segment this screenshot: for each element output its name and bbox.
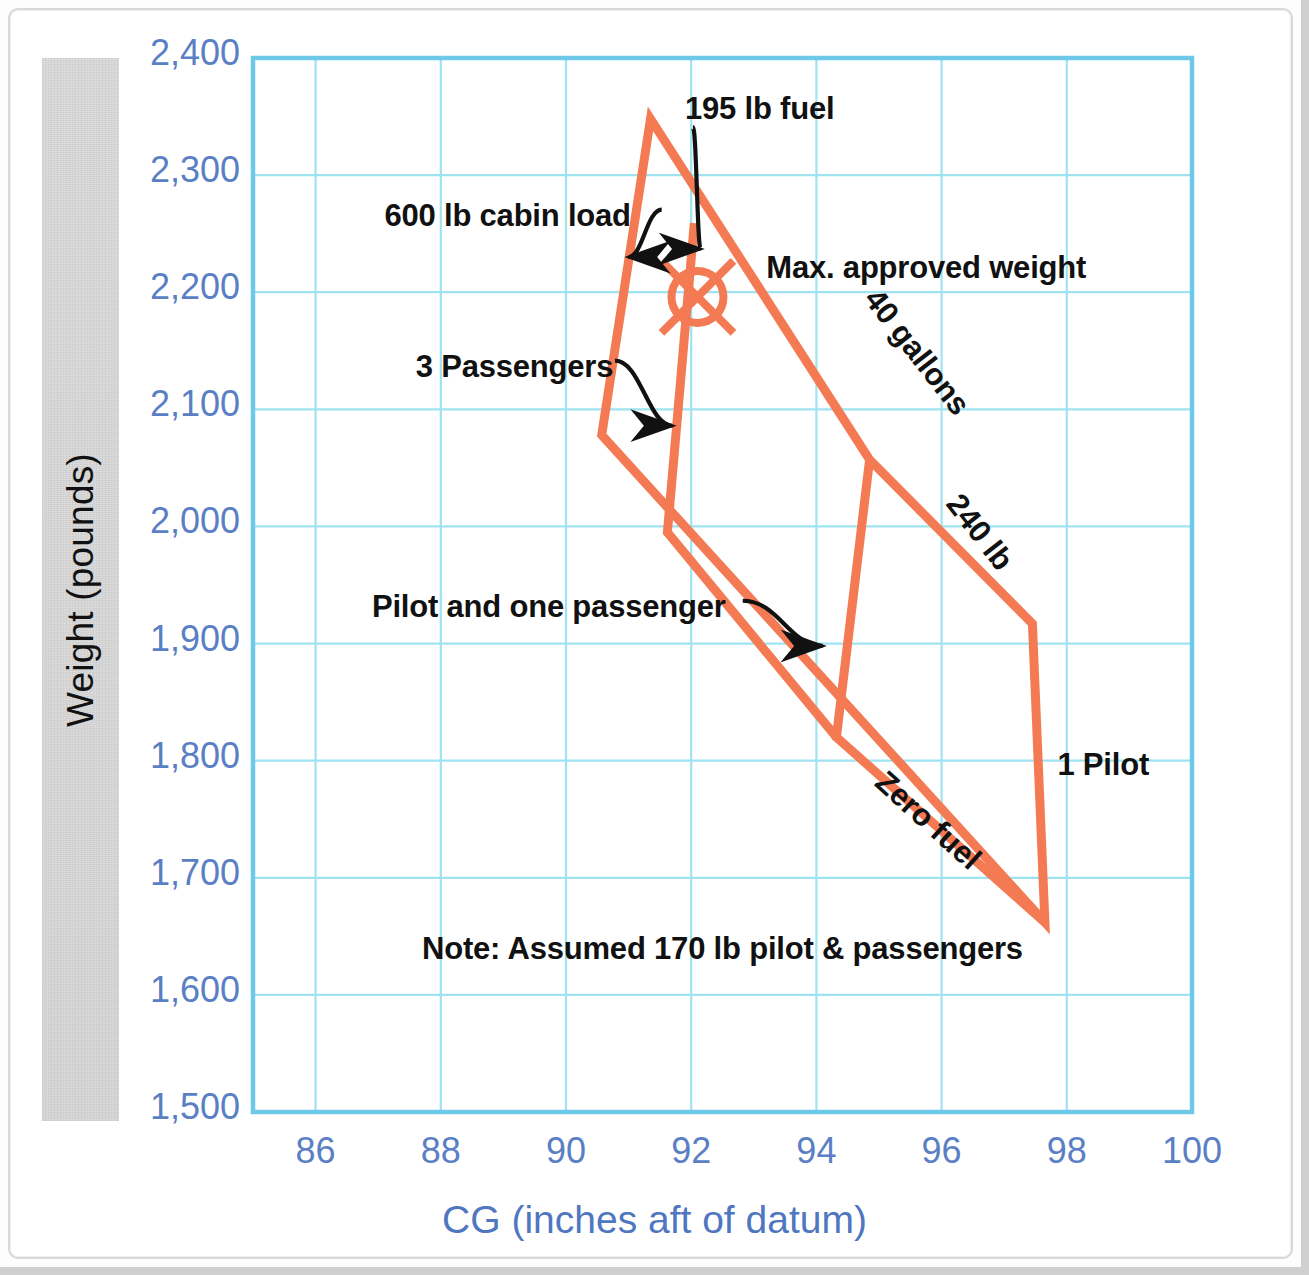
x-tick-label: 92 xyxy=(631,1130,751,1172)
y-tick-label: 1,800 xyxy=(128,735,240,777)
y-tick-label: 1,600 xyxy=(128,969,240,1011)
figure-page: Weight (pounds) 1,5001,6001,7001,8001,90… xyxy=(0,0,1309,1275)
y-tick-label: 2,400 xyxy=(128,32,240,74)
x-axis-title: CG (inches aft of datum) xyxy=(0,1198,1309,1242)
x-tick-label: 86 xyxy=(256,1130,376,1172)
y-tick-label: 2,100 xyxy=(128,383,240,425)
1-pilot: 1 Pilot xyxy=(1057,747,1149,783)
loaded-cg-point xyxy=(661,261,733,333)
x-tick-label: 98 xyxy=(1007,1130,1127,1172)
195-lb-fuel: 195 lb fuel xyxy=(685,91,834,127)
annotation-arrow xyxy=(615,361,672,426)
x-tick-label: 94 xyxy=(756,1130,876,1172)
y-tick-label: 1,500 xyxy=(128,1086,240,1128)
y-tick-label: 1,700 xyxy=(128,852,240,894)
y-tick-label: 2,300 xyxy=(128,149,240,191)
pilot-and-one-passenger: Pilot and one passenger xyxy=(372,589,726,625)
y-tick-label: 2,000 xyxy=(128,500,240,542)
y-tick-label: 2,200 xyxy=(128,266,240,308)
3-passengers: 3 Passengers xyxy=(416,349,614,385)
x-tick-label: 100 xyxy=(1132,1130,1252,1172)
x-tick-label: 96 xyxy=(882,1130,1002,1172)
note: Note: Assumed 170 lb pilot & passengers xyxy=(422,931,1023,967)
600-lb-cabin-load: 600 lb cabin load xyxy=(384,198,630,234)
max-approved-weight: Max. approved weight xyxy=(766,250,1086,286)
x-tick-label: 90 xyxy=(506,1130,626,1172)
x-tick-label: 88 xyxy=(381,1130,501,1172)
y-tick-label: 1,900 xyxy=(128,618,240,660)
